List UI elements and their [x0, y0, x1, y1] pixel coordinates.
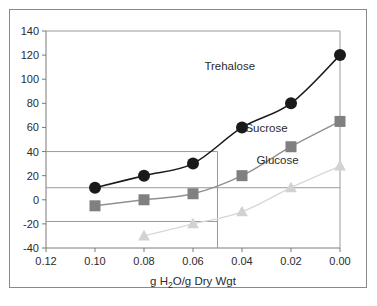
x-axis-title: g H2O/g Dry Wgt [150, 275, 237, 290]
y-tick-label-60: 60 [27, 121, 39, 133]
x-tick-label-0.00: 0.00 [329, 255, 350, 267]
x-tick-label-0.08: 0.08 [133, 255, 154, 267]
data-point-sucrose-2[interactable] [188, 188, 199, 199]
y-tick-label-100: 100 [21, 73, 39, 85]
y-tick-label-20: 20 [27, 170, 39, 182]
chart-canvas: -40-200204060801001201400.120.100.080.06… [0, 0, 377, 306]
data-point-sucrose-3[interactable] [237, 170, 248, 181]
series-label-trehalose: Trehalose [204, 60, 255, 72]
data-point-sucrose-4[interactable] [286, 141, 297, 152]
data-point-sucrose-1[interactable] [139, 194, 150, 205]
x-tick-label-0.04: 0.04 [231, 255, 252, 267]
data-point-trehalose-5[interactable] [334, 49, 346, 61]
y-tick-label-40: 40 [27, 146, 39, 158]
data-point-trehalose-4[interactable] [285, 97, 297, 109]
data-point-trehalose-2[interactable] [187, 158, 199, 170]
data-point-glucose-3[interactable] [285, 182, 297, 193]
x-tick-label-0.10: 0.10 [84, 255, 105, 267]
x-tick-label-0.06: 0.06 [182, 255, 203, 267]
y-tick-label-0: 0 [33, 194, 39, 206]
data-point-glucose-4[interactable] [334, 160, 346, 171]
data-point-glucose-2[interactable] [236, 206, 248, 217]
data-point-sucrose-0[interactable] [90, 200, 101, 211]
series-label-glucose: Glucose [256, 154, 298, 166]
figure-root: -40-200204060801001201400.120.100.080.06… [0, 0, 377, 306]
data-point-sucrose-5[interactable] [335, 116, 346, 127]
y-tick-label-120: 120 [21, 49, 39, 61]
data-point-trehalose-0[interactable] [89, 182, 101, 194]
y-tick-label--40: -40 [23, 242, 39, 254]
x-tick-label-0.02: 0.02 [280, 255, 301, 267]
series-label-sucrose: Sucrose [245, 122, 287, 134]
y-tick-label--20: -20 [23, 218, 39, 230]
y-tick-label-140: 140 [21, 25, 39, 37]
data-point-trehalose-1[interactable] [138, 170, 150, 182]
x-tick-label-0.12: 0.12 [35, 255, 56, 267]
y-tick-label-80: 80 [27, 97, 39, 109]
